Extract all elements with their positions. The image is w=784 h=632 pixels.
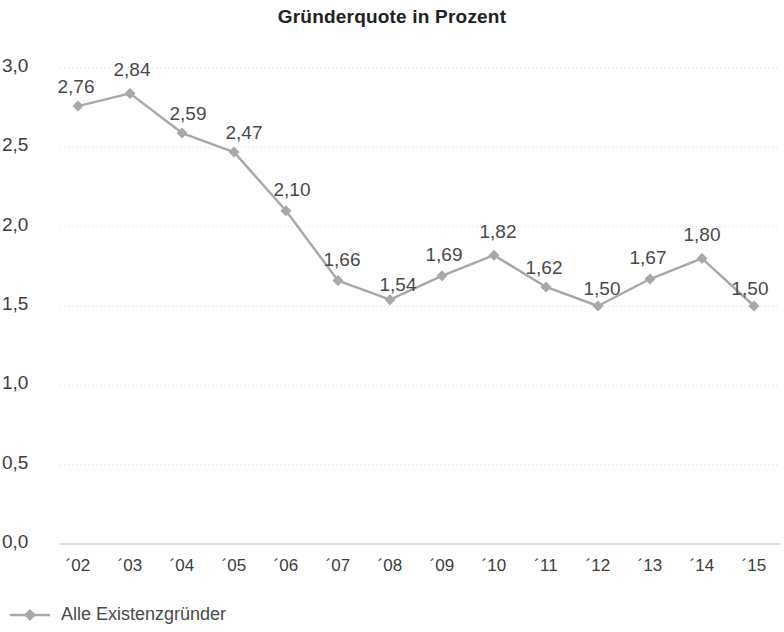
data-point-value-label: 1,66 [318,249,366,271]
x-axis-tick-label: ´10 [468,556,520,576]
data-point-value-label: 2,76 [52,76,100,98]
x-axis-tick-label: ´06 [260,556,312,576]
data-point-value-label: 1,62 [520,257,568,279]
legend-marker-icon [8,607,52,623]
y-axis-tick-label: 1,0 [2,372,56,394]
data-point-marker [489,250,500,261]
data-point-value-label: 2,84 [108,59,156,81]
data-point-value-label: 1,54 [374,274,422,296]
y-axis-tick-label: 2,5 [2,134,56,156]
x-axis-tick-label: ´02 [52,556,104,576]
x-axis-tick-label: ´12 [572,556,624,576]
x-axis-tick-label: ´13 [624,556,676,576]
x-axis-tick-label: ´11 [520,556,572,576]
x-axis-tick-label: ´15 [728,556,780,576]
legend-item-label: Alle Existenzgründer [61,604,226,625]
data-point-value-label: 2,10 [268,179,316,201]
y-axis-tick-label: 2,0 [2,214,56,236]
data-point-value-label: 1,80 [678,224,726,246]
data-point-value-label: 1,82 [474,221,522,243]
data-point-marker [385,294,396,305]
data-point-value-label: 1,50 [726,278,774,300]
x-axis-tick-label: ´03 [104,556,156,576]
data-point-marker [541,281,552,292]
x-axis-tick-label: ´09 [416,556,468,576]
data-point-value-label: 1,69 [420,244,468,266]
y-axis-tick-label: 0,5 [2,452,56,474]
x-axis-tick-label: ´05 [208,556,260,576]
data-point-marker [645,274,656,285]
data-point-value-label: 1,67 [624,247,672,269]
y-axis-tick-label: 0,0 [2,531,56,553]
data-point-value-label: 1,50 [578,278,626,300]
x-axis-tick-label: ´08 [364,556,416,576]
data-point-value-label: 2,59 [164,103,212,125]
data-point-marker [437,270,448,281]
x-axis-tick-label: ´07 [312,556,364,576]
x-axis-tick-label: ´04 [156,556,208,576]
x-axis-tick-label: ´14 [676,556,728,576]
y-axis-tick-label: 1,5 [2,293,56,315]
data-point-marker [73,101,84,112]
gridlines-group [60,68,780,544]
data-point-marker [593,301,604,312]
data-point-value-label: 2,47 [220,122,268,144]
chart-plot-area [0,0,784,632]
y-axis-tick-label: 3,0 [2,55,56,77]
chart-legend: Alle Existenzgründer [8,604,226,625]
chart-container: Gründerquote in Prozent 3,02,52,01,51,00… [0,0,784,632]
